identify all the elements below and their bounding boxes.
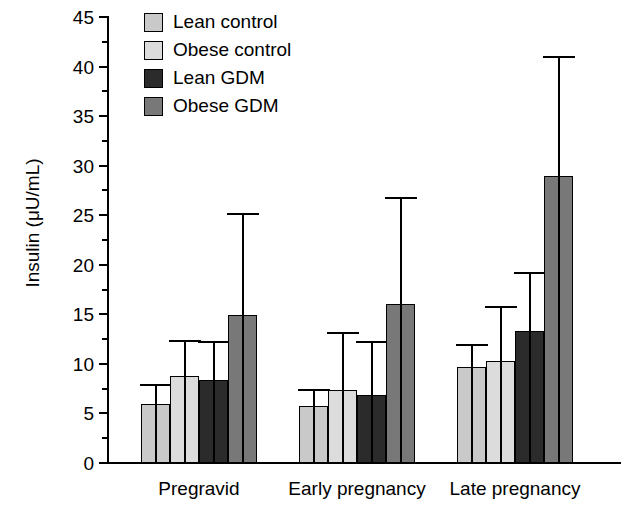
y-tick-label: 0 <box>83 454 94 473</box>
chart-legend: Lean controlObese controlLean GDMObese G… <box>144 8 291 120</box>
tick-mark <box>99 412 108 414</box>
category-label: Early pregnancy <box>288 478 425 500</box>
error-bar-stem <box>313 390 315 463</box>
error-bar-cap <box>356 341 388 343</box>
error-bar-cap <box>140 384 172 386</box>
error-bar-stem <box>242 214 244 463</box>
legend-swatch-obese-control <box>144 41 163 60</box>
error-bar-cap <box>543 56 575 58</box>
y-tick-label: 45 <box>73 8 94 27</box>
insulin-bar-chart: Insulin (μU/mL) 051015202530354045 Pregr… <box>0 0 628 529</box>
tick-mark <box>99 264 108 266</box>
legend-item: Obese GDM <box>144 92 291 120</box>
legend-item: Lean control <box>144 8 291 36</box>
y-tick-label: 5 <box>83 404 94 423</box>
legend-swatch-obese-gdm <box>144 97 163 116</box>
error-bar-stem <box>529 273 531 463</box>
error-bar-cap <box>169 340 201 342</box>
error-bar-stem <box>213 342 215 463</box>
legend-label: Obese control <box>173 39 291 61</box>
legend-swatch-lean-control <box>144 13 163 32</box>
legend-item: Obese control <box>144 36 291 64</box>
tick-mark <box>99 313 108 315</box>
y-tick-label: 15 <box>73 305 94 324</box>
error-bar-cap <box>227 213 259 215</box>
tick-mark <box>99 165 108 167</box>
y-tick-label: 25 <box>73 206 94 225</box>
error-bar-cap <box>485 306 517 308</box>
y-tick-label: 10 <box>73 354 94 373</box>
error-bar-stem <box>471 345 473 463</box>
y-tick-label: 35 <box>73 107 94 126</box>
legend-item: Lean GDM <box>144 64 291 92</box>
error-bar-cap <box>514 272 546 274</box>
error-bar-stem <box>558 57 560 463</box>
error-bar-stem <box>371 342 373 463</box>
error-bar-cap <box>456 344 488 346</box>
category-label: Pregravid <box>158 478 239 500</box>
error-bar-cap <box>327 332 359 334</box>
tick-mark <box>99 66 108 68</box>
legend-label: Obese GDM <box>173 95 279 117</box>
category-label: Late pregnancy <box>450 478 581 500</box>
tick-mark <box>99 214 108 216</box>
legend-swatch-lean-gdm <box>144 69 163 88</box>
y-tick-label: 40 <box>73 57 94 76</box>
error-bar-stem <box>500 307 502 463</box>
error-bar-cap <box>298 389 330 391</box>
error-bar-stem <box>400 198 402 463</box>
error-bar-cap <box>198 341 230 343</box>
error-bar-stem <box>155 385 157 463</box>
y-tick-label: 20 <box>73 255 94 274</box>
error-bar-stem <box>342 333 344 463</box>
error-bar-stem <box>184 341 186 463</box>
legend-label: Lean control <box>173 11 278 33</box>
error-bar-cap <box>385 197 417 199</box>
tick-mark <box>99 363 108 365</box>
y-tick-label: 30 <box>73 156 94 175</box>
tick-mark <box>99 115 108 117</box>
tick-mark <box>99 462 108 464</box>
tick-mark <box>99 16 108 18</box>
y-axis-title: Insulin (μU/mL) <box>22 0 44 446</box>
legend-label: Lean GDM <box>173 67 265 89</box>
